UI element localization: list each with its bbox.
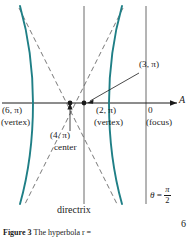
focus-kind-label: (focus) xyxy=(146,118,172,127)
leader-line-directrix-point xyxy=(90,73,139,101)
polar-axis-arrowhead xyxy=(170,100,177,106)
point-directrix-intercept xyxy=(82,101,87,106)
directrix-point-label: (3, π) xyxy=(139,60,159,69)
directrix-label: directrix xyxy=(57,205,91,215)
theta-symbol: θ xyxy=(150,190,155,200)
theta-value-fraction: π 2 xyxy=(164,186,170,205)
theta-numerator: π xyxy=(164,186,170,194)
theta-half-pi-label: θ = π 2 xyxy=(150,186,171,205)
directrix-point-coord: (3, π) xyxy=(139,59,159,69)
page-number: 6 xyxy=(181,218,186,229)
focus-coord-label: 0 xyxy=(148,106,153,115)
theta-denominator: 2 xyxy=(164,197,170,205)
right-vertex-kind-label: (vertex) xyxy=(94,118,123,127)
figure-caption-label: Figure 3 xyxy=(3,228,32,237)
center-kind-label: center xyxy=(54,143,76,152)
polar-axis-label: A xyxy=(179,95,185,105)
point-center xyxy=(68,101,73,106)
theta-equals-sign: = xyxy=(157,190,162,200)
left-vertex-kind-label: (vertex) xyxy=(1,118,30,127)
figure-caption: Figure 3 The hyperbola r = xyxy=(3,228,91,237)
left-vertex-coord-label: (6, π) xyxy=(2,106,22,115)
right-vertex-coord-label: (2, π) xyxy=(96,106,116,115)
center-coord-label: (4, π) xyxy=(50,131,70,140)
figure-caption-text: The hyperbola r = xyxy=(34,228,92,237)
